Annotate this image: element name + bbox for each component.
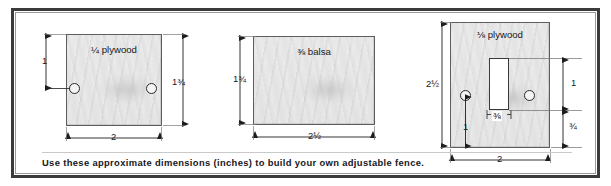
panel-plywood-eighth-slot-width-dim: ⅜ (492, 111, 502, 121)
panel-plywood-eighth-height-dim: 2½ (425, 79, 440, 89)
caption-separator (42, 152, 572, 153)
panel-plywood-quarter-height-dim: 1¾ (171, 77, 186, 87)
panel-balsa-height-dim: 1¾ (232, 74, 247, 84)
panel-plywood-quarter-width-dim: 2 (110, 132, 117, 142)
panel-plywood-eighth-slot (489, 58, 509, 110)
panel-plywood-eighth-label: ⅛ plywood (450, 29, 550, 40)
panel-plywood-eighth-hole-right (524, 90, 535, 101)
panel-plywood-eighth-slot-height-dim: 1 (570, 78, 577, 88)
panel-plywood-quarter-hole-left (69, 83, 80, 94)
panel-plywood-quarter-label: ¼ plywood (66, 44, 162, 55)
figure-caption: Use these approximate dimensions (inches… (42, 157, 582, 168)
panel-plywood-eighth-hole-left (460, 90, 471, 101)
panel-balsa-width-dim: 2½ (307, 131, 322, 141)
panel-balsa-label: ⅜ balsa (253, 46, 375, 57)
panel-plywood-eighth-hole-offset-dim: 1 (462, 122, 469, 132)
panel-plywood-eighth-bottom-gap-dim: ¾ (568, 121, 578, 131)
panel-plywood-quarter-hole-offset-dim: 1 (41, 56, 48, 66)
panel-plywood-quarter-hole-right (146, 83, 157, 94)
technical-drawing-figure: ¼ plywood 1 1¾ 2 ⅜ balsa 1¾ 2½ ⅛ plywood… (0, 0, 611, 186)
